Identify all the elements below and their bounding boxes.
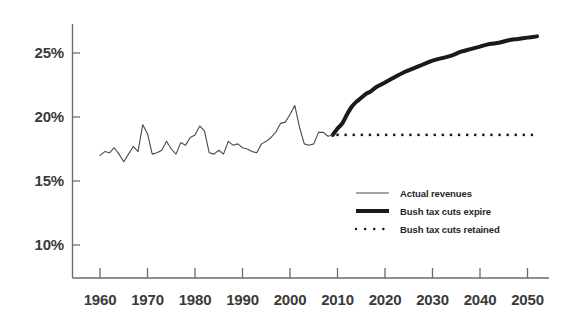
x-tick-label: 1980 bbox=[179, 291, 212, 308]
legend-label-bush-tax-cuts-expire: Bush tax cuts expire bbox=[400, 206, 491, 217]
x-tick-label: 2050 bbox=[511, 291, 544, 308]
y-tick-label: 15% bbox=[35, 172, 64, 189]
y-tick-label: 20% bbox=[35, 108, 64, 125]
x-tick-label: 2040 bbox=[464, 291, 497, 308]
revenue-projection-chart: 25% 20% 15% 10% 1960 1970 1980 1990 2000… bbox=[0, 0, 581, 330]
chart-background bbox=[0, 0, 581, 330]
x-tick-label: 1960 bbox=[84, 291, 117, 308]
legend-label-bush-tax-cuts-retained: Bush tax cuts retained bbox=[400, 224, 500, 235]
x-tick-label: 2020 bbox=[369, 291, 402, 308]
chart-canvas: 25% 20% 15% 10% 1960 1970 1980 1990 2000… bbox=[0, 0, 581, 330]
x-tick-label: 1970 bbox=[131, 291, 164, 308]
legend-label-actual-revenues: Actual revenues bbox=[400, 188, 472, 199]
y-tick-label: 10% bbox=[35, 236, 64, 253]
x-tick-label: 1990 bbox=[226, 291, 259, 308]
x-tick-label: 2000 bbox=[274, 291, 307, 308]
x-tick-label: 2030 bbox=[416, 291, 449, 308]
x-tick-label: 2010 bbox=[321, 291, 354, 308]
y-tick-label: 25% bbox=[35, 44, 64, 61]
